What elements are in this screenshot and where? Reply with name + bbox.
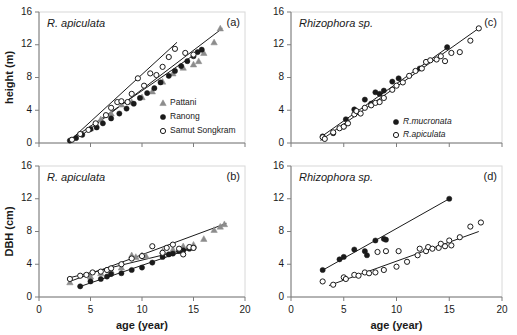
panel-b-x-ticklabel: 5 — [88, 304, 94, 315]
data-point-open — [447, 238, 452, 243]
panel-a-y-ticklabel: 4 — [26, 104, 32, 115]
panel-c-y-ticklabel: 0 — [278, 137, 284, 148]
data-point-filled — [139, 265, 144, 270]
panel-a-y-ticklabel: 0 — [26, 137, 32, 148]
data-point-open — [404, 259, 409, 264]
data-point-filled — [362, 97, 367, 102]
data-point-filled — [381, 88, 386, 93]
panel-b-y-ticklabel: 4 — [26, 258, 32, 269]
data-point-open — [86, 127, 91, 132]
panel-c-y-ticklabel: 4 — [278, 104, 284, 115]
data-point-filled — [88, 279, 93, 284]
panel-d: 048121605101520(d)Rhizophora sp.age (yea… — [273, 160, 508, 331]
panel-b-x-ticklabel: 10 — [136, 304, 148, 315]
data-point-open — [377, 99, 382, 104]
data-point-open — [69, 137, 74, 142]
panel-d-plot-area — [291, 166, 502, 297]
data-point-open — [183, 50, 188, 55]
panel-a-plot-area — [39, 12, 245, 143]
data-point-filled — [383, 237, 388, 242]
panel-b-y-ticklabel: 0 — [26, 291, 32, 302]
data-point-open — [160, 250, 165, 255]
panel-c-y-ticklabel: 12 — [273, 38, 285, 49]
legend-marker-filled — [160, 114, 165, 119]
data-point-filled — [109, 271, 114, 276]
legend-label: Pattani — [170, 97, 197, 107]
legend-label: R.mucronata — [403, 116, 452, 126]
data-point-open — [449, 243, 454, 248]
data-point-filled — [98, 276, 103, 281]
panel-b-y-ticklabel: 16 — [21, 160, 33, 171]
panel-b-y-ticklabel: 8 — [26, 225, 32, 236]
data-point-filled — [131, 101, 136, 106]
legend-label: Ranong — [170, 111, 200, 121]
data-point-open — [442, 244, 447, 249]
figure-canvas: 0481216(a)R. apiculataheight (m)04812160… — [0, 0, 517, 335]
data-point-open — [430, 246, 435, 251]
legend-label: Samut Songkram — [170, 125, 236, 135]
data-point-open — [457, 50, 462, 55]
data-point-open — [400, 80, 405, 85]
data-point-open — [166, 54, 171, 59]
panel-b-x-ticklabel: 20 — [239, 304, 251, 315]
data-point-open — [415, 253, 420, 258]
panel-d-x-ticklabel: 0 — [288, 304, 294, 315]
data-point-open — [191, 52, 196, 57]
data-point-open — [181, 252, 186, 257]
data-point-open — [154, 72, 159, 77]
panel-d-x-ticklabel: 20 — [496, 304, 508, 315]
panel-a-y-ticklabel: 8 — [26, 71, 32, 82]
data-point-filled — [185, 59, 190, 64]
panel-b-y-axis-title: DBH (cm) — [3, 206, 15, 256]
data-point-open — [90, 270, 95, 275]
data-point-open — [103, 113, 108, 118]
data-point-filled — [320, 267, 325, 272]
data-point-open — [373, 270, 378, 275]
data-point-open — [320, 279, 325, 284]
data-point-open — [84, 272, 89, 277]
panel-c-y-ticklabel: 8 — [278, 71, 284, 82]
data-point-filled — [152, 86, 157, 91]
panel-b-tag: (b) — [227, 170, 240, 182]
data-point-filled — [447, 196, 452, 201]
data-point-filled — [396, 76, 401, 81]
data-point-open — [417, 246, 422, 251]
data-point-filled — [341, 254, 346, 259]
panel-d-tag: (d) — [484, 170, 497, 182]
data-point-open — [119, 99, 124, 104]
figure-root: 0481216(a)R. apiculataheight (m)04812160… — [0, 0, 517, 335]
panel-c-species-label: Rhizophora sp. — [299, 17, 373, 29]
data-point-open — [135, 76, 140, 81]
data-point-open — [322, 136, 327, 141]
data-point-filled — [137, 95, 142, 100]
panel-d-x-axis-title: age (year) — [371, 319, 423, 331]
legend-marker-open — [160, 128, 165, 133]
panel-b-x-ticklabel: 0 — [36, 304, 42, 315]
data-point-open — [109, 105, 114, 110]
panel-c-tag: (c) — [484, 16, 497, 28]
data-point-open — [345, 121, 350, 126]
legend-label: R.apiculata — [403, 129, 446, 139]
data-point-open — [438, 54, 443, 59]
panel-b-x-ticklabel: 15 — [188, 304, 200, 315]
data-point-open — [148, 71, 153, 76]
data-point-open — [468, 224, 473, 229]
panel-a-y-ticklabel: 12 — [21, 38, 33, 49]
data-point-filled — [124, 106, 129, 111]
data-point-open — [129, 256, 134, 261]
data-point-filled — [179, 63, 184, 68]
data-point-open — [139, 253, 144, 258]
data-point-open — [449, 50, 454, 55]
panel-a-y-axis-title: height (m) — [3, 51, 15, 104]
data-point-filled — [445, 45, 450, 50]
data-point-filled — [199, 47, 204, 52]
panel-d-x-ticklabel: 10 — [391, 304, 403, 315]
data-point-open — [390, 87, 395, 92]
panel-d-y-ticklabel: 12 — [273, 192, 285, 203]
data-point-open — [478, 220, 483, 225]
data-point-filled — [78, 284, 83, 289]
data-point-filled — [352, 247, 357, 252]
data-point-filled — [166, 73, 171, 78]
data-point-open — [160, 64, 165, 69]
data-point-filled — [364, 253, 369, 258]
